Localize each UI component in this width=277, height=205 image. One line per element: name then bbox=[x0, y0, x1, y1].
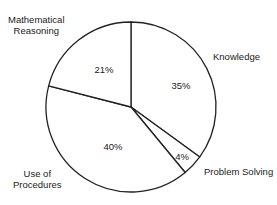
label-problem-solving: Problem Solving bbox=[204, 166, 273, 177]
percent-knowledge: 35% bbox=[171, 80, 190, 91]
percent-problem-solving: 4% bbox=[175, 151, 189, 162]
percent-procedures: 40% bbox=[103, 141, 122, 152]
label-knowledge: Knowledge bbox=[213, 51, 260, 62]
label-mathematical-reasoning: Mathematical Reasoning bbox=[8, 14, 65, 36]
percent-reasoning: 21% bbox=[94, 64, 113, 75]
label-use-of-procedures: Use of Procedures bbox=[13, 168, 62, 190]
